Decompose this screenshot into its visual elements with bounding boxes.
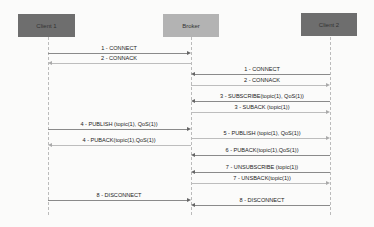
participant-client-2: Client 2: [301, 13, 357, 36]
message-arrow: [191, 138, 328, 139]
message-arrow: [193, 101, 330, 102]
arrow-right-icon: [326, 83, 330, 87]
arrow-left-icon: [48, 61, 52, 65]
lifeline-client-2: [330, 37, 331, 215]
message-arrow: [193, 155, 330, 156]
arrow-right-icon: [187, 51, 191, 55]
message-arrow: [191, 112, 328, 113]
message-arrow: [191, 85, 328, 86]
arrow-left-icon: [191, 203, 195, 207]
arrow-left-icon: [191, 170, 195, 174]
lifeline-broker: [191, 37, 192, 215]
message-arrow: [48, 200, 189, 201]
message-label: 3 - SUBSCRIBE(topic(1), QoS(1)): [220, 93, 304, 99]
message-label: 7 - UNSUBSCRIBE (topic(1)): [226, 164, 298, 170]
message-label: 8 - DISCONNECT: [96, 192, 141, 198]
arrow-right-icon: [187, 127, 191, 131]
arrow-right-icon: [326, 110, 330, 114]
message-arrow: [191, 183, 328, 184]
message-label: 4 - PUBACK(topic(1),QoS(1)): [82, 137, 155, 143]
message-arrow: [50, 63, 191, 64]
arrow-left-icon: [191, 72, 195, 76]
message-label: 1 - CONNECT: [244, 66, 280, 72]
participant-client-1: Client 1: [18, 14, 75, 37]
arrow-right-icon: [326, 181, 330, 185]
message-label: 8 - DISCONNECT: [239, 197, 284, 203]
arrow-right-icon: [326, 136, 330, 140]
arrow-right-icon: [187, 198, 191, 202]
message-label: 6 - PUBACK(topic(1),QoS(1)): [225, 147, 298, 153]
participant-broker: Broker: [163, 14, 219, 37]
message-label: 2 - CONNACK: [101, 55, 137, 61]
message-arrow: [193, 172, 330, 173]
message-label: 4 - PUBLISH (topic(1), QoS(1)): [80, 121, 157, 127]
message-arrow: [48, 53, 189, 54]
arrow-left-icon: [191, 99, 195, 103]
message-arrow: [193, 74, 330, 75]
arrow-left-icon: [191, 153, 195, 157]
message-arrow: [50, 145, 191, 146]
message-label: 1 - CONNECT: [101, 45, 137, 51]
message-arrow: [193, 205, 330, 206]
message-label: 3 - SUBACK (topic(1)): [234, 104, 289, 110]
message-arrow: [48, 129, 189, 130]
message-label: 2 - CONNACK: [244, 77, 280, 83]
message-label: 5 - PUBLISH (topic(1), QoS(1)): [223, 130, 300, 136]
arrow-left-icon: [48, 143, 52, 147]
message-label: 7 - UNSBACK(topic(1)): [233, 175, 291, 181]
